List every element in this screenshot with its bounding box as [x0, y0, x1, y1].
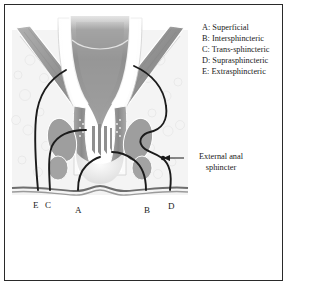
callout-line-1: External anal [186, 152, 256, 163]
legend-item-d: D: Suprasphincteric [202, 55, 286, 66]
callout-line-2: sphincter [186, 163, 256, 174]
marker-label-a: A [75, 205, 82, 215]
external-anal-sphincter-callout: External anal sphincter [186, 152, 256, 173]
marker-label-e: E [33, 200, 39, 210]
marker-label-c: C [45, 200, 51, 210]
legend-item-a: A: Superficial [202, 22, 286, 33]
legend-item-b: B: Intersphincteric [202, 33, 286, 44]
marker-label-b: B [144, 205, 150, 215]
legend: A: Superficial B: Intersphincteric C: Tr… [202, 22, 286, 77]
legend-item-c: C: Trans-sphincteric [202, 44, 286, 55]
legend-item-e: E: Extrasphincteric [202, 66, 286, 77]
marker-label-d: D [168, 201, 175, 211]
